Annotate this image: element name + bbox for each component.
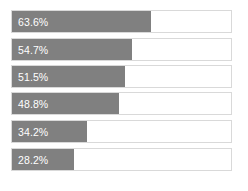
horizontal-bar-chart: 63.6% 54.7% 51.5% 48.8% 34.2% 28.2%: [0, 0, 248, 191]
bar-row: 28.2%: [11, 148, 232, 171]
bar-value-label: 63.6%: [18, 11, 48, 32]
bar-row: 48.8%: [11, 92, 232, 115]
bar-value-label: 48.8%: [18, 93, 48, 114]
bar-value-label: 51.5%: [18, 66, 48, 87]
bar-value-label: 54.7%: [18, 39, 48, 60]
bar-row: 34.2%: [11, 120, 232, 143]
bar-row: 63.6%: [11, 10, 232, 33]
bar-value-label: 34.2%: [18, 121, 48, 142]
bar-row: 54.7%: [11, 38, 232, 61]
bar-row: 51.5%: [11, 65, 232, 88]
bar-value-label: 28.2%: [18, 149, 48, 170]
